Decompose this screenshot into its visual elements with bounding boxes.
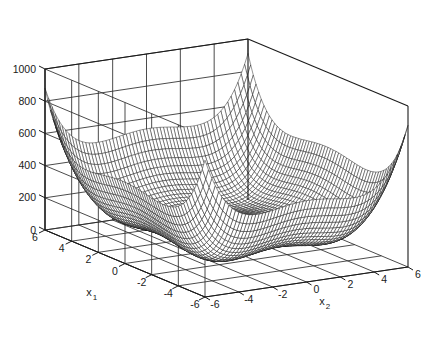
x2-tick-label: -2 <box>278 288 287 300</box>
surface-plot-figure: 100080060040020006420-2-4-6-6-4-20246x1x… <box>0 0 436 341</box>
x2-tick-label: -4 <box>244 293 253 305</box>
z-tick-label: 600 <box>18 127 36 139</box>
x1-tick-label: 0 <box>112 265 118 277</box>
x2-tick-label: -6 <box>210 298 219 310</box>
svg-text:x: x <box>319 295 325 307</box>
x2-tick-label: 2 <box>347 278 353 290</box>
x2-tick-label: 0 <box>314 283 320 295</box>
x2-tick-label: 6 <box>415 268 421 280</box>
svg-text:x: x <box>86 286 92 298</box>
x1-tick-label: -2 <box>137 276 146 288</box>
z-tick-label: 200 <box>18 191 36 203</box>
svg-text:1: 1 <box>93 293 98 302</box>
z-tick-label: 1000 <box>13 63 37 75</box>
x1-tick-label: 4 <box>59 242 65 254</box>
plot-canvas: 100080060040020006420-2-4-6-6-4-20246x1x… <box>0 0 436 341</box>
x1-tick-label: -6 <box>190 298 199 310</box>
svg-text:2: 2 <box>326 302 331 311</box>
x1-tick-label: 6 <box>32 231 38 243</box>
x1-tick-label: 2 <box>85 253 91 265</box>
z-tick-label: 800 <box>18 95 36 107</box>
x1-tick-label: -4 <box>164 287 173 299</box>
x2-tick-label: 4 <box>381 273 387 285</box>
z-tick-label: 400 <box>18 159 36 171</box>
